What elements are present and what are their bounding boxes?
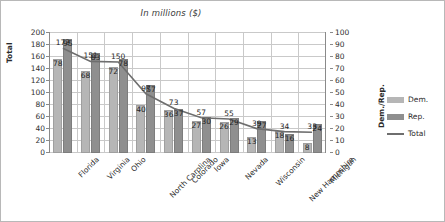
data-label-total: 150 — [106, 52, 130, 61]
legend-label: Dem. — [408, 95, 428, 104]
legend-line-marker — [387, 133, 404, 135]
y-tick-label-primary: 120 — [19, 76, 45, 85]
y-tick-label-secondary: 90 — [335, 40, 361, 49]
data-label-total: 151 — [79, 51, 103, 60]
data-label-rep: 16 — [282, 134, 297, 143]
data-label-total: 34 — [272, 122, 296, 131]
legend-label: Rep. — [408, 112, 425, 121]
y-tick-label-primary: 0 — [19, 148, 45, 157]
data-label-rep: 29 — [227, 118, 242, 127]
y-tick-mark-secondary — [330, 92, 333, 93]
y-axis-title-secondary: Dem./Rep. — [377, 84, 386, 128]
y-tick-mark-secondary — [330, 80, 333, 81]
y-tick-label-primary: 60 — [19, 112, 45, 121]
y-tick-mark-secondary — [330, 56, 333, 57]
y-tick-mark-secondary — [330, 140, 333, 141]
legend-label: Total — [408, 129, 426, 138]
chart-legend: Dem.Rep.Total — [387, 93, 428, 144]
y-tick-label-primary: 20 — [19, 136, 45, 145]
y-tick-label-secondary: 70 — [335, 64, 361, 73]
legend-swatch — [387, 97, 404, 103]
x-axis-label: Wisconsin — [274, 155, 307, 188]
y-axis-secondary-line — [325, 32, 326, 153]
data-label-total: 97 — [134, 84, 158, 93]
y-tick-label-primary: 200 — [19, 28, 45, 37]
y-tick-label-secondary: 60 — [335, 76, 361, 85]
y-tick-label-secondary: 20 — [335, 124, 361, 133]
y-tick-label-primary: 140 — [19, 64, 45, 73]
x-axis-label: Virginia — [105, 155, 131, 181]
legend-item[interactable]: Dem. — [387, 93, 428, 106]
data-label-dem: 8 — [300, 143, 315, 152]
y-tick-mark-secondary — [330, 128, 333, 129]
data-label-total: 57 — [189, 108, 213, 117]
y-tick-mark-secondary — [330, 152, 333, 153]
x-axis-label: Nevada — [243, 155, 270, 182]
y-tick-mark-secondary — [330, 104, 333, 105]
y-tick-label-secondary: 80 — [335, 52, 361, 61]
y-axis-primary-line — [49, 32, 50, 153]
y-tick-label-primary: 180 — [19, 40, 45, 49]
y-axis-primary-ticks: 020406080100120140160180200 — [17, 32, 45, 153]
data-label-dem: 13 — [244, 137, 259, 146]
data-label-rep: 37 — [171, 109, 186, 118]
data-label-total: 39 — [245, 119, 269, 128]
y-tick-label-secondary: 10 — [335, 136, 361, 145]
data-label-total: 173 — [51, 38, 75, 47]
data-label-dem: 78 — [50, 59, 65, 68]
legend-swatch — [387, 114, 404, 120]
data-label-total: 55 — [217, 109, 241, 118]
data-label-total: 73 — [162, 98, 186, 107]
y-axis-secondary-ticks: 0102030405060708090100 — [330, 32, 358, 153]
data-label-dem: 68 — [78, 71, 93, 80]
y-tick-mark-secondary — [330, 68, 333, 69]
data-label-rep: 30 — [199, 117, 214, 126]
y-tick-label-secondary: 50 — [335, 88, 361, 97]
y-tick-label-primary: 160 — [19, 52, 45, 61]
data-label-total: 33 — [300, 122, 324, 131]
data-label-dem: 40 — [133, 105, 148, 114]
y-tick-label-primary: 100 — [19, 88, 45, 97]
y-tick-label-secondary: 30 — [335, 112, 361, 121]
legend-item[interactable]: Total — [387, 127, 428, 140]
y-tick-label-primary: 40 — [19, 124, 45, 133]
x-axis-category-labels: FloridaVirginiaOhioNorth CarolinaColorad… — [49, 155, 326, 215]
plot-area: 7895173688315172781504057973637732730572… — [49, 32, 326, 153]
y-tick-label-secondary: 40 — [335, 100, 361, 109]
x-axis-label: Ohio — [129, 155, 148, 174]
y-tick-label-secondary: 100 — [335, 28, 361, 37]
y-tick-mark-secondary — [330, 44, 333, 45]
y-tick-mark-secondary — [330, 32, 333, 33]
y-tick-label-primary: 80 — [19, 100, 45, 109]
x-axis-label: Florida — [76, 155, 100, 179]
y-axis-title-primary: Total — [5, 43, 14, 64]
legend-item[interactable]: Rep. — [387, 110, 428, 123]
chart-title: In millions ($) — [1, 8, 341, 18]
y-tick-mark-secondary — [330, 116, 333, 117]
chart-container: In millions ($) Total Dem./Rep. 02040608… — [0, 0, 445, 222]
